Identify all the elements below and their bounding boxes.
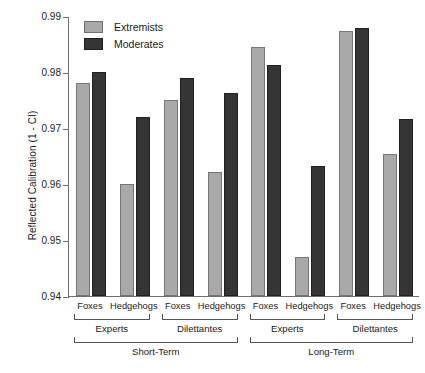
y-axis-tick-label: 0.98 — [23, 68, 61, 78]
x-label-l2-experts-0: Experts — [74, 323, 150, 334]
legend-label-extremists: Extremists — [114, 21, 163, 33]
bar-extremists-6 — [339, 31, 353, 296]
y-axis-tick-label: 0.99 — [23, 12, 61, 22]
bar-extremists-1 — [120, 184, 134, 296]
bar-extremists-4 — [251, 47, 265, 296]
x-bracket-l3-0 — [74, 337, 238, 343]
legend-swatch-extremists — [84, 21, 103, 33]
bar-moderates-6 — [355, 28, 369, 296]
bar-extremists-3 — [208, 172, 222, 296]
y-axis-tick — [63, 73, 69, 74]
y-axis-tick — [63, 17, 69, 18]
y-axis-tick-label: 0.97 — [23, 124, 61, 134]
x-label-l2-dilettantes-1: Dilettantes — [162, 323, 238, 334]
x-bracket-l2-2 — [250, 314, 326, 320]
x-label-l2-dilettantes-3: Dilettantes — [337, 323, 413, 334]
bar-extremists-0 — [76, 83, 90, 296]
x-label-l3-short-term-0: Short-Term — [74, 346, 238, 357]
y-axis-tick — [63, 241, 69, 242]
bar-extremists-2 — [164, 100, 178, 296]
bar-extremists-5 — [295, 257, 309, 296]
plot-area: 0.990.980.970.960.950.94 — [68, 17, 419, 297]
x-bracket-l2-1 — [162, 314, 238, 320]
bar-moderates-0 — [92, 72, 106, 296]
bar-moderates-2 — [180, 78, 194, 296]
bar-chart-figure: Reflected Calibration (1 - CI) 0.990.980… — [0, 0, 425, 373]
bar-extremists-7 — [383, 154, 397, 296]
legend-swatch-moderates — [84, 38, 103, 50]
bar-moderates-5 — [311, 166, 325, 296]
x-label-l2-experts-2: Experts — [250, 323, 326, 334]
y-axis-tick-label: 0.96 — [23, 180, 61, 190]
bar-moderates-3 — [224, 93, 238, 296]
x-label-l1-hedgehogs-7: Hedgehogs — [357, 301, 425, 311]
legend-item-moderates: Moderates — [84, 35, 164, 52]
legend: Extremists Moderates — [84, 18, 164, 52]
legend-item-extremists: Extremists — [84, 18, 164, 35]
bar-moderates-4 — [267, 65, 281, 296]
y-axis-tick-label: 0.95 — [23, 236, 61, 246]
x-label-l3-long-term-1: Long-Term — [250, 346, 414, 357]
y-axis-tick — [63, 297, 69, 298]
bar-moderates-7 — [399, 119, 413, 296]
x-bracket-l2-3 — [337, 314, 413, 320]
x-bracket-l2-0 — [74, 314, 150, 320]
y-axis-tick — [63, 185, 69, 186]
bar-moderates-1 — [136, 117, 150, 296]
legend-label-moderates: Moderates — [114, 38, 164, 50]
x-bracket-l3-1 — [250, 337, 414, 343]
y-axis-tick — [63, 129, 69, 130]
